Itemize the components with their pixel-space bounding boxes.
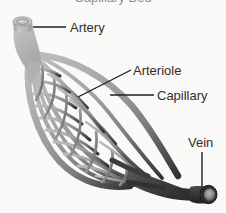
label-artery: Artery bbox=[70, 20, 105, 35]
label-vein: Vein bbox=[188, 135, 213, 150]
vein-lumen-inner bbox=[204, 189, 214, 201]
capillary-bed-illustration: Capillary Bed Artery Arteriole Capillary… bbox=[0, 0, 226, 213]
label-capillary: Capillary bbox=[157, 88, 208, 103]
figure-title-cropped: Capillary Bed bbox=[74, 0, 151, 5]
artery-lumen-inner bbox=[17, 19, 29, 24]
vein-vessel bbox=[112, 160, 217, 204]
label-arteriole: Arteriole bbox=[133, 63, 181, 78]
capillary-bed-figure: Capillary Bed Artery Arteriole Capillary… bbox=[0, 0, 226, 213]
